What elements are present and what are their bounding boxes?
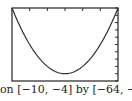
axis-ticks (12, 8, 118, 81)
window-caption: on [−10, −4] by [−64, −54] (0, 83, 132, 96)
plot-frame (12, 8, 118, 81)
plot-area (0, 0, 132, 83)
parabola-curve (12, 8, 118, 74)
